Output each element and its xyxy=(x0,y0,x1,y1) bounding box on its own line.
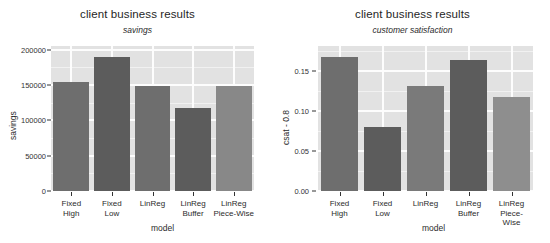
y-tick-mark xyxy=(312,110,316,111)
x-tick-label: LinReg Piece-Wise xyxy=(213,199,253,218)
x-tick-mark xyxy=(234,192,235,196)
x-tick-label: LinReg xyxy=(140,199,165,209)
y-tick-mark xyxy=(47,49,51,50)
x-tick-label: Fixed High xyxy=(62,199,82,218)
bar-series xyxy=(51,46,254,191)
y-axis-title: csat - 0.8 xyxy=(281,110,291,145)
y-tick-label: 50000 xyxy=(25,151,46,160)
bar xyxy=(94,57,130,191)
x-tick-mark xyxy=(426,192,427,196)
bar xyxy=(135,86,171,191)
bar xyxy=(450,60,488,191)
y-tick-mark xyxy=(312,191,316,192)
y-tick-label: 0.15 xyxy=(294,66,309,75)
x-tick-mark xyxy=(383,192,384,196)
x-tick-mark xyxy=(71,192,72,196)
plot-area xyxy=(318,46,533,191)
y-tick-label: 0.10 xyxy=(294,106,309,115)
x-tick-label: LinReg Buffer xyxy=(456,199,481,218)
x-tick-mark xyxy=(112,192,113,196)
x-tick-label: Fixed Low xyxy=(102,199,122,218)
chart-panel-customer-satisfaction: client business results customer satisfa… xyxy=(275,0,550,243)
y-tick-mark xyxy=(312,150,316,151)
x-axis-title: model xyxy=(275,223,550,233)
bar xyxy=(493,97,531,191)
x-tick-label: LinReg Buffer xyxy=(180,199,205,218)
bar xyxy=(53,82,89,191)
x-tick-mark xyxy=(340,192,341,196)
x-tick-mark xyxy=(512,192,513,196)
x-tick-mark xyxy=(193,192,194,196)
x-tick-label: LinReg xyxy=(413,199,438,209)
y-tick-label: 150000 xyxy=(21,80,46,89)
y-axis-title: savings xyxy=(8,111,18,140)
bar xyxy=(364,127,402,191)
y-tick-mark xyxy=(47,155,51,156)
chart-subtitle: customer satisfaction xyxy=(275,25,550,35)
x-axis-title: model xyxy=(0,223,275,233)
y-tick-mark xyxy=(312,70,316,71)
bar xyxy=(175,108,211,191)
bar xyxy=(321,57,359,191)
x-tick-label: Fixed High xyxy=(330,199,350,218)
chart-title: client business results xyxy=(275,8,550,20)
plot-area xyxy=(51,46,254,191)
x-tick-label: Fixed Low xyxy=(373,199,393,218)
y-tick-mark xyxy=(47,191,51,192)
y-tick-mark xyxy=(47,120,51,121)
chart-panel-savings: client business results savings 05000010… xyxy=(0,0,275,243)
bar xyxy=(407,86,445,191)
x-tick-mark xyxy=(153,192,154,196)
bar xyxy=(216,86,252,191)
x-tick-mark xyxy=(469,192,470,196)
y-tick-label: 100000 xyxy=(21,116,46,125)
figure-canvas: client business results savings 05000010… xyxy=(0,0,550,243)
y-tick-mark xyxy=(47,84,51,85)
bar-series xyxy=(318,46,533,191)
y-tick-label: 0 xyxy=(42,187,46,196)
y-tick-label: 0.00 xyxy=(294,187,309,196)
y-tick-label: 200000 xyxy=(21,45,46,54)
y-tick-label: 0.05 xyxy=(294,146,309,155)
